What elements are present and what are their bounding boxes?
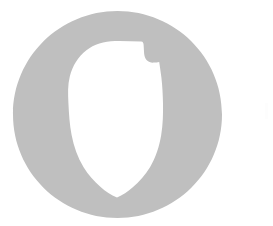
letter-o-glyph (0, 0, 273, 226)
glyph-canvas: Large grey capital letter O with an asym… (0, 0, 273, 226)
right-edge-speck (265, 103, 268, 119)
letter-o-outer-ring (13, 11, 222, 218)
